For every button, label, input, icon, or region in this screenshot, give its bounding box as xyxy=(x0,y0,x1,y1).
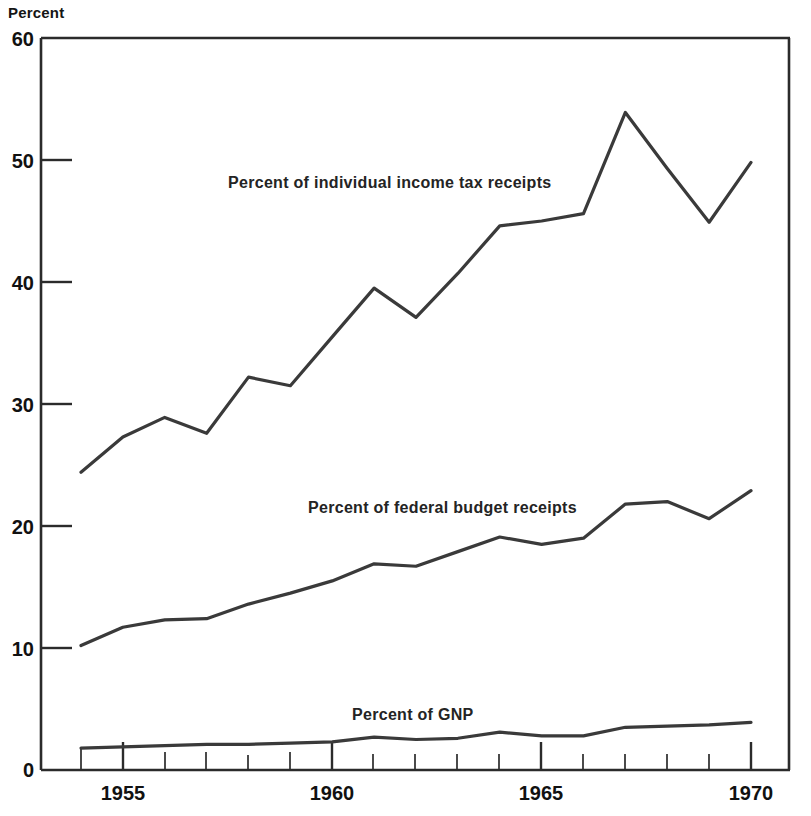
page-edge-artifact xyxy=(0,805,811,816)
y-tick-label-10: 10 xyxy=(12,638,34,660)
x-tick-label-1960: 1960 xyxy=(310,782,355,804)
annotation-individual-income-tax: Percent of individual income tax receipt… xyxy=(228,174,552,191)
x-axis-major-ticks xyxy=(123,742,751,770)
y-tick-label-50: 50 xyxy=(12,150,34,172)
series-line-individual-income-tax xyxy=(81,112,751,472)
x-tick-label-1970: 1970 xyxy=(729,782,774,804)
x-axis-minor-ticks xyxy=(81,748,709,770)
y-tick-label-60: 60 xyxy=(12,28,34,50)
y-axis-ticks xyxy=(41,160,72,648)
x-tick-label-1965: 1965 xyxy=(519,782,564,804)
y-tick-label-20: 20 xyxy=(12,516,34,538)
series-annotations: Percent of individual income tax receipt… xyxy=(228,174,577,723)
chart-container: Percent 0 10 20 30 40 50 60 xyxy=(0,0,811,816)
y-tick-label-30: 30 xyxy=(12,394,34,416)
axis-frame xyxy=(41,38,790,770)
y-tick-label-0: 0 xyxy=(23,759,34,781)
annotation-federal-budget-receipts: Percent of federal budget receipts xyxy=(308,499,577,516)
x-axis-labels: 1955 1960 1965 1970 xyxy=(101,782,774,804)
series-group xyxy=(81,112,751,748)
annotation-gnp: Percent of GNP xyxy=(352,706,474,723)
line-chart-plot: 0 10 20 30 40 50 60 xyxy=(0,0,811,816)
x-tick-label-1955: 1955 xyxy=(101,782,146,804)
y-tick-label-40: 40 xyxy=(12,272,34,294)
y-axis-labels: 0 10 20 30 40 50 60 xyxy=(12,28,34,781)
series-line-gnp xyxy=(81,722,751,748)
